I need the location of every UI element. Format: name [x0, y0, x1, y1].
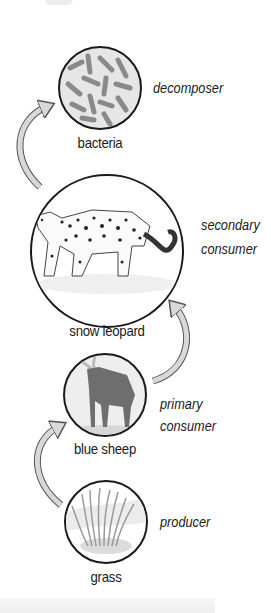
bottom-edge-band — [0, 598, 215, 613]
grass-label: grass — [71, 568, 141, 585]
blue-sheep-node — [63, 353, 147, 437]
snow-leopard-icon — [32, 176, 182, 326]
primary-consumer-role-line1: primary — [160, 392, 203, 416]
bacteria-icon — [60, 48, 140, 128]
blue-sheep-icon — [65, 355, 145, 435]
decomposer-role: decomposer — [153, 76, 223, 100]
snow-leopard-node — [30, 174, 184, 328]
bacteria-label: bacteria — [65, 134, 135, 151]
arrow-leopard-to-bacteria — [20, 107, 46, 187]
producer-role: producer — [160, 510, 210, 534]
snow-leopard-label: snow leopard — [63, 322, 151, 339]
blue-sheep-label: blue sheep — [61, 440, 149, 457]
secondary-consumer-role-line2: consumer — [201, 237, 257, 261]
grass-node — [64, 480, 148, 564]
grass-icon — [66, 482, 146, 562]
bacteria-node — [58, 46, 142, 130]
secondary-consumer-role-line1: secondary — [201, 213, 260, 237]
arrow-grass-to-sheep — [37, 427, 61, 505]
primary-consumer-role-line2: consumer — [160, 414, 216, 438]
